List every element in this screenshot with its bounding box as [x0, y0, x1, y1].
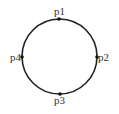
circle-diagram: p1p2p3p4	[0, 0, 119, 114]
point-p1-label: p1	[54, 5, 65, 17]
point-p4-label: p4	[10, 51, 22, 63]
point-p1-marker	[57, 17, 61, 21]
points-layer	[20, 17, 99, 96]
circle-outline	[22, 19, 97, 94]
point-p2-label: p2	[98, 51, 109, 63]
point-p3-label: p3	[54, 94, 66, 106]
